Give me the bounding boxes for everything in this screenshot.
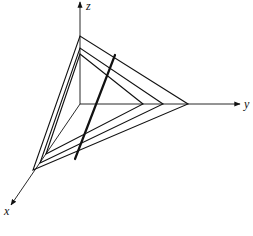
- planes: [33, 36, 188, 170]
- z-axis-label: z: [85, 0, 91, 13]
- plane-3: [33, 36, 188, 170]
- axes: [11, 2, 240, 205]
- three-planes-diagram: x y z: [0, 0, 253, 236]
- x-axis-label: x: [3, 204, 10, 218]
- axis-labels: x y z: [3, 0, 250, 218]
- y-axis-label: y: [243, 97, 250, 111]
- plane-2: [40, 48, 163, 163]
